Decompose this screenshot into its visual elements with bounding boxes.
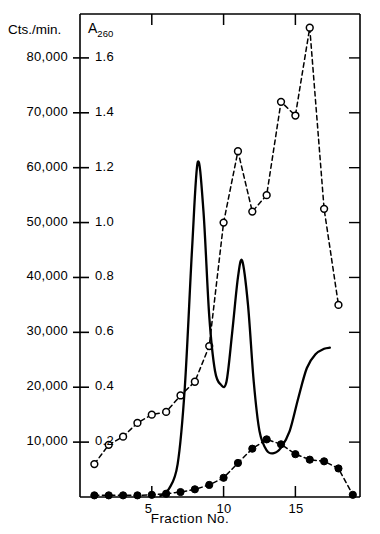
data-point-filled [91,492,98,499]
right-tick-label-1: 1.0 [95,214,114,229]
left-tick-label-80000: 80,000 [0,49,68,64]
data-point-filled [321,458,328,465]
x-axis-title: Fraction No. [0,511,380,526]
axis-frame [80,14,360,497]
data-point-open [134,420,141,427]
data-point-filled [220,474,227,481]
series-0 [91,24,342,467]
left-tick-label-20000: 20,000 [0,378,68,393]
data-point-filled [306,456,313,463]
left-axis-ticks [73,58,89,442]
data-point-filled [349,491,356,498]
data-point-open [91,461,98,468]
right-tick-label-0.8: 0.8 [95,268,114,283]
data-point-filled [163,490,170,497]
right-axis-ticks [349,58,360,442]
data-series-layer [91,24,357,499]
data-point-filled [292,451,299,458]
right-tick-label-1.2: 1.2 [95,159,114,174]
left-tick-label-10000: 10,000 [0,433,68,448]
data-point-open [148,411,155,418]
data-point-filled [263,436,270,443]
data-point-open [177,392,184,399]
right-tick-label-0.2: 0.2 [95,433,114,448]
series-1 [160,161,329,496]
data-point-filled [277,441,284,448]
data-point-open [306,24,313,31]
left-tick-label-30000: 30,000 [0,323,68,338]
data-point-open [292,112,299,119]
left-tick-label-60000: 60,000 [0,159,68,174]
data-point-open [235,148,242,155]
data-point-filled [335,465,342,472]
data-point-open [163,409,170,416]
chromatogram-figure: Cts./min. A260 10,0000.220,0000.430,0000… [0,0,380,534]
data-point-open [335,301,342,308]
data-point-filled [177,488,184,495]
data-point-open [278,98,285,105]
data-point-open [191,378,198,385]
left-tick-label-50000: 50,000 [0,214,68,229]
data-point-open [321,205,328,212]
bottom-axis-ticks [152,486,296,497]
data-point-filled [206,481,213,488]
right-tick-label-1.6: 1.6 [95,49,114,64]
data-point-filled [249,445,256,452]
data-point-open [120,433,127,440]
data-point-open [263,192,270,199]
data-point-filled [119,492,126,499]
data-point-filled [134,492,141,499]
data-point-filled [191,486,198,493]
data-point-open [220,219,227,226]
right-tick-label-0.6: 0.6 [95,323,114,338]
right-tick-label-0.4: 0.4 [95,378,114,393]
top-axis-ticks [152,14,296,25]
data-point-filled [148,491,155,498]
right-tick-label-1.4: 1.4 [95,104,114,119]
data-point-filled [234,459,241,466]
data-point-open [249,208,256,215]
left-tick-label-40000: 40,000 [0,268,68,283]
left-tick-label-70000: 70,000 [0,104,68,119]
data-point-filled [105,492,112,499]
plot-area [0,0,380,534]
